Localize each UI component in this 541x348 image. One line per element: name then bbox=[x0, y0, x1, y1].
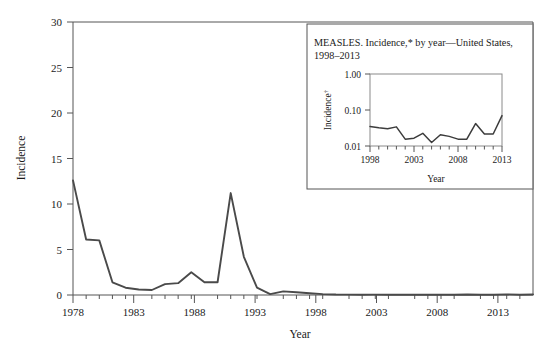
measles-incidence-figure: 0 5 10 15 20 25 bbox=[0, 0, 541, 348]
main-y-ticklabel: 10 bbox=[51, 198, 63, 210]
main-y-ticklabel: 5 bbox=[57, 244, 63, 256]
inset-title-line1: MEASLES. Incidence,* by year—United Stat… bbox=[314, 37, 513, 48]
main-x-ticklabel: 1978 bbox=[62, 306, 85, 318]
main-x-tick: 2013 bbox=[487, 295, 510, 318]
inset-y-axis-dagger: † bbox=[322, 89, 330, 93]
main-x-ticklabel: 1983 bbox=[123, 306, 146, 318]
main-data-line bbox=[73, 180, 533, 294]
inset-chart: MEASLES. Incidence,* by year—United Stat… bbox=[307, 24, 533, 189]
main-y-axis-title: Incidence bbox=[15, 136, 27, 181]
main-y-tick: 20 bbox=[51, 107, 73, 119]
inset-x-ticklabel: 2013 bbox=[493, 155, 512, 165]
main-y-ticklabel: 20 bbox=[51, 107, 63, 119]
main-y-tick: 25 bbox=[51, 62, 73, 74]
main-y-tick: 5 bbox=[57, 244, 74, 256]
inset-x-ticklabel: 2008 bbox=[449, 155, 468, 165]
main-y-ticklabel: 15 bbox=[51, 153, 63, 165]
main-x-axis-title: Year bbox=[289, 328, 310, 340]
main-y-tick: 30 bbox=[51, 16, 73, 28]
inset-x-ticklabel: 2003 bbox=[405, 155, 424, 165]
inset-y-axis-title-text: Incidence bbox=[323, 93, 333, 130]
main-y-ticklabel: 30 bbox=[51, 16, 63, 28]
inset-y-axis-title: Incidence† bbox=[322, 89, 333, 130]
main-x-ticklabel: 1993 bbox=[244, 306, 267, 318]
main-x-tick: 1983 bbox=[123, 295, 146, 318]
main-x-tick: 2003 bbox=[366, 295, 389, 318]
main-y-tick: 0 bbox=[57, 289, 74, 301]
main-x-ticklabel: 2008 bbox=[426, 306, 449, 318]
inset-y-ticklabel: 1.00 bbox=[344, 70, 361, 80]
main-y-tick: 15 bbox=[51, 153, 73, 165]
main-x-axis: 1978 1983 1988 1993 1998 2003 bbox=[62, 295, 509, 340]
inset-x-axis-title: Year bbox=[427, 174, 445, 184]
inset-y-ticklabel: 0.01 bbox=[344, 142, 361, 152]
inset-y-ticklabel: 0.10 bbox=[344, 106, 361, 116]
main-x-ticklabel: 2013 bbox=[487, 306, 510, 318]
main-y-ticklabel: 0 bbox=[57, 289, 63, 301]
main-x-tick: 2008 bbox=[426, 295, 449, 318]
inset-x-ticklabel: 1998 bbox=[361, 155, 380, 165]
main-x-ticklabel: 2003 bbox=[366, 306, 389, 318]
chart-canvas: 0 5 10 15 20 25 bbox=[0, 0, 541, 348]
main-x-tick: 1998 bbox=[305, 295, 328, 318]
main-x-tick: 1988 bbox=[183, 295, 206, 318]
main-x-tick: 1993 bbox=[244, 295, 267, 318]
main-y-ticklabel: 25 bbox=[51, 62, 63, 74]
inset-title-line2: 1998–2013 bbox=[314, 50, 360, 61]
main-y-tick: 10 bbox=[51, 198, 73, 210]
main-x-tick: 1978 bbox=[62, 295, 85, 318]
main-y-axis: 0 5 10 15 20 25 bbox=[15, 16, 73, 301]
main-x-ticklabel: 1988 bbox=[183, 306, 206, 318]
main-x-ticklabel: 1998 bbox=[305, 306, 328, 318]
